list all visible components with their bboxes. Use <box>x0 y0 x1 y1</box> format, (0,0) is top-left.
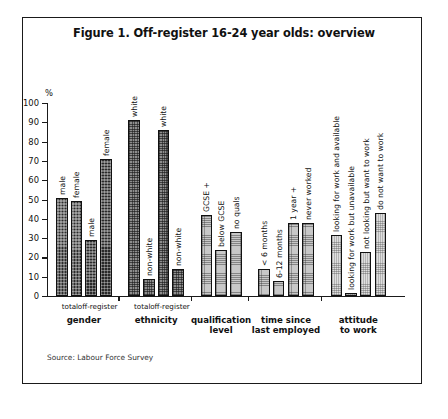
bar-label: never worked <box>304 167 313 219</box>
y-axis-tick-label: 80 <box>28 137 39 147</box>
bar-time-since-last-employed-0: < 6 months <box>258 269 270 296</box>
y-axis-tick-label: 90 <box>28 117 39 127</box>
y-axis-tick <box>42 180 48 181</box>
bar-label: < 6 months <box>260 221 269 266</box>
y-axis-tick <box>42 219 48 220</box>
bar-label: 1 year + <box>290 186 299 219</box>
y-axis-tick <box>42 122 48 123</box>
bar-label: looking for work and available <box>333 116 342 232</box>
bar-label: 6-12 months <box>275 229 284 278</box>
bar-gender-0: male <box>56 198 68 296</box>
y-axis-tick-label: 70 <box>28 156 39 166</box>
x-axis-group-label-attitude-to-work: attitudeto work <box>339 315 378 335</box>
x-axis-group-label-gender: gender <box>67 315 101 325</box>
bar-label: no quals <box>232 197 241 230</box>
y-axis-tick-label: 0 <box>34 291 39 301</box>
y-axis-tick <box>42 142 48 143</box>
bar-label: below GCSE <box>217 200 226 246</box>
bar-qualification-level-2: no quals <box>230 232 242 296</box>
bar-time-since-last-employed-3: never worked <box>302 223 314 296</box>
source-note: Source: Labour Force Survey <box>47 353 153 362</box>
y-axis-tick-label: 60 <box>28 175 39 185</box>
group-separator-tick <box>321 296 322 301</box>
bar-attitude-to-work-0: looking for work and available <box>331 235 343 296</box>
bar-ethnicity-1: non-white <box>143 279 155 296</box>
y-axis-tick <box>42 257 48 258</box>
x-axis-line <box>47 296 405 297</box>
y-axis-tick-label: 10 <box>28 272 39 282</box>
y-axis-tick <box>42 103 48 104</box>
bar-label: GCSE + <box>203 182 212 212</box>
bar-label: male <box>58 176 67 195</box>
y-axis-unit-label: % <box>45 88 53 98</box>
bar-gender-3: female <box>100 159 112 296</box>
bar-label: male <box>88 218 97 237</box>
bar-time-since-last-employed-2: 1 year + <box>288 223 300 296</box>
plot-area: % 0102030405060708090100 malefemalemalef… <box>47 103 405 296</box>
y-axis-tick-label: 40 <box>28 214 39 224</box>
bar-qualification-level-0: GCSE + <box>201 215 213 296</box>
y-axis-tick <box>42 277 48 278</box>
group-separator-tick <box>118 296 119 301</box>
x-axis-group-label-qualification-level: qualificationlevel <box>191 315 251 335</box>
bar-label: female <box>73 172 82 199</box>
bar-qualification-level-1: below GCSE <box>215 250 227 296</box>
y-axis-tick <box>42 161 48 162</box>
bar-ethnicity-3: non-white <box>172 269 184 296</box>
bar-attitude-to-work-1: looking for work but unavailable <box>345 293 357 296</box>
bar-label: female <box>102 129 111 156</box>
bar-label: not looking but want to work <box>362 138 371 249</box>
bar-label: looking for work but unavailable <box>347 166 356 290</box>
page-title: Figure 1. Off-register 16-24 year olds: … <box>0 26 448 40</box>
y-axis-tick <box>42 238 48 239</box>
bar-label: white <box>160 106 169 127</box>
x-axis-group-label-ethnicity: ethnicity <box>135 315 178 325</box>
bar-label: do not want to work <box>377 133 386 210</box>
y-axis-tick <box>42 296 48 297</box>
x-axis-sublabel-gender-1: off-register <box>78 302 118 311</box>
y-axis-tick-label: 100 <box>23 98 39 108</box>
x-axis-sublabel-ethnicity-0: total <box>134 302 150 311</box>
x-axis-sublabel-ethnicity-1: off-register <box>150 302 190 311</box>
x-axis-sublabel-gender-0: total <box>62 302 78 311</box>
bar-ethnicity-2: white <box>158 130 170 296</box>
y-axis-tick-label: 50 <box>28 195 39 205</box>
bar-gender-2: male <box>85 240 97 296</box>
bar-ethnicity-0: white <box>128 120 140 296</box>
bar-time-since-last-employed-1: 6-12 months <box>273 281 285 296</box>
group-separator-tick <box>248 296 249 301</box>
y-axis-tick-label: 20 <box>28 252 39 262</box>
bar-label: non-white <box>175 228 184 266</box>
bar-attitude-to-work-2: not looking but want to work <box>360 252 372 296</box>
y-axis-line <box>47 103 48 296</box>
y-axis-tick <box>42 200 48 201</box>
bar-gender-1: female <box>71 201 83 296</box>
x-axis-group-label-time-since-last-employed: time sincelast employed <box>252 315 320 335</box>
bar-label: white <box>130 96 139 117</box>
bar-attitude-to-work-3: do not want to work <box>375 213 387 296</box>
bar-label: non-white <box>145 237 154 275</box>
y-axis-tick-label: 30 <box>28 233 39 243</box>
group-separator-tick <box>191 296 192 301</box>
